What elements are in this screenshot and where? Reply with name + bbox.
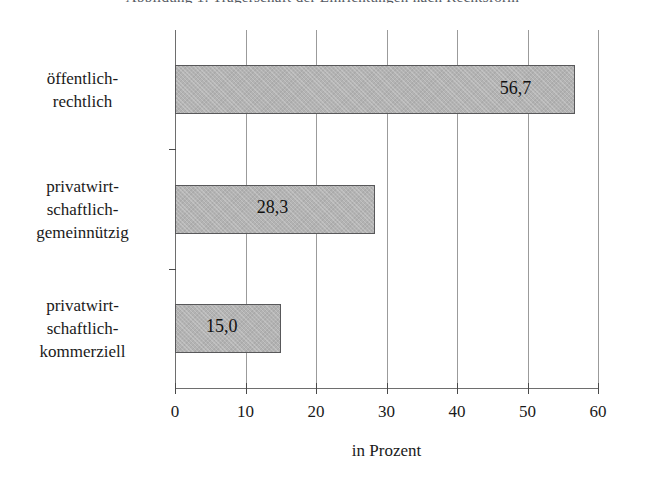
x-tick-label-0: 0 <box>155 402 195 422</box>
x-tick-40 <box>457 383 458 394</box>
x-tick-20 <box>316 383 317 394</box>
category-label-line: kommerziell <box>0 340 165 363</box>
bar-value-label-3: 15,0 <box>206 316 238 337</box>
category-label-line: gemeinnützig <box>0 221 165 244</box>
category-label-2: privatwirt-schaftlich-gemeinnützig <box>0 175 165 244</box>
category-label-line: rechtlich <box>0 90 165 113</box>
y-tick-1 <box>169 149 176 150</box>
gridline-x-60 <box>598 30 599 388</box>
x-tick-label-40: 40 <box>437 402 477 422</box>
category-label-1: öffentlich-rechtlich <box>0 67 165 113</box>
x-axis-title: in Prozent <box>175 441 598 461</box>
bar-value-label-2: 28,3 <box>257 197 289 218</box>
bar-chart-figure: Abbildung 1: Trägerschaft der Einrichtun… <box>0 0 645 482</box>
clipped-caption-text: Abbildung 1: Trägerschaft der Einrichtun… <box>0 0 645 3</box>
x-tick-label-50: 50 <box>508 402 548 422</box>
category-label-line: schaftlich- <box>0 317 165 340</box>
category-label-line: öffentlich- <box>0 67 165 90</box>
x-tick-60 <box>598 383 599 394</box>
x-tick-label-10: 10 <box>226 402 266 422</box>
category-label-line: privatwirt- <box>0 175 165 198</box>
x-tick-label-20: 20 <box>296 402 336 422</box>
plot-area: 010203040506056,728,315,0 <box>175 30 598 388</box>
x-tick-0 <box>175 383 176 394</box>
category-label-3: privatwirt-schaftlich-kommerziell <box>0 294 165 363</box>
x-tick-label-60: 60 <box>578 402 618 422</box>
x-tick-50 <box>528 383 529 394</box>
y-tick-2 <box>169 269 176 270</box>
x-tick-10 <box>246 383 247 394</box>
category-label-line: schaftlich- <box>0 198 165 221</box>
x-tick-label-30: 30 <box>367 402 407 422</box>
category-label-line: privatwirt- <box>0 294 165 317</box>
bar-value-label-1: 56,7 <box>500 78 532 99</box>
x-tick-30 <box>387 383 388 394</box>
